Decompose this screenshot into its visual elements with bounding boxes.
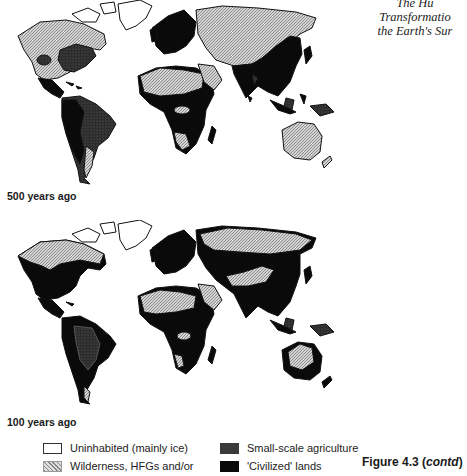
legend-item-small-scale-agriculture: Small-scale agriculture (220, 442, 358, 454)
world-map-100-years-ago: 100 years ago (0, 220, 467, 420)
map-label-500: 500 years ago (7, 190, 76, 202)
world-map-500-years-ago: 500 years ago (0, 0, 467, 200)
legend-label: Wilderness, HFGs and/or (70, 460, 193, 472)
legend-label: 'Civilized' lands (247, 460, 322, 472)
legend-item-wilderness: Wilderness, HFGs and/or (43, 460, 193, 472)
figure-caption: Figure 4.3 (contd) (362, 455, 463, 469)
legend-item-uninhabited: Uninhabited (mainly ice) (43, 442, 188, 454)
swatch-white-icon (43, 443, 62, 454)
legend-label: Uninhabited (mainly ice) (70, 442, 188, 454)
legend-label: Small-scale agriculture (247, 442, 358, 454)
swatch-stipple-icon (220, 443, 239, 454)
map-label-100: 100 years ago (7, 416, 76, 428)
legend-item-civilized-lands: 'Civilized' lands (220, 460, 322, 472)
swatch-hatched-icon (43, 461, 62, 472)
swatch-black-icon (220, 461, 239, 472)
